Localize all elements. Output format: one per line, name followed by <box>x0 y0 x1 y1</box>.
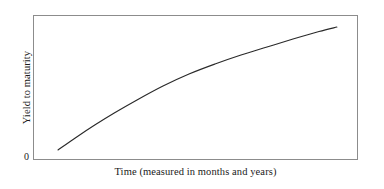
y-axis-label: Yield to maturity <box>18 15 34 160</box>
yield-curve-figure: Yield to maturity Time (measured in mont… <box>0 0 384 189</box>
origin-zero-label: 0 <box>24 152 29 162</box>
x-axis-label: Time (measured in months and years) <box>33 166 358 177</box>
plot-frame <box>33 15 358 160</box>
